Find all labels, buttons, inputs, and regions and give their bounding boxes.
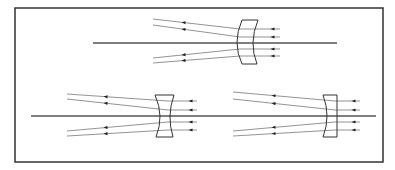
ray-arrow-icon [181,21,185,25]
light-ray [67,94,197,101]
lens-group-biconcave [31,94,218,137]
light-ray [153,25,280,37]
lens-group-meniscus [93,19,337,64]
ray-arrow-icon [103,95,107,98]
ray-arrow-icon [271,54,275,57]
ray-arrow-icon [103,126,107,130]
ray-arrow-icon [352,128,356,131]
ray-arrow-icon [271,27,275,30]
ray-arrow-icon [271,126,275,130]
ray-arrow-icon [103,132,107,135]
ray-arrow-icon [271,47,275,50]
light-ray [153,49,280,58]
ray-arrow-icon [181,59,185,63]
ray-arrow-icon [352,120,356,123]
lens-diagram [0,0,395,170]
meniscus-lens-outline [237,20,258,64]
light-ray [67,130,197,136]
ray-arrow-icon [189,128,193,131]
ray-arrow-icon [271,35,275,38]
ray-arrow-icon [271,94,275,98]
ray-arrow-icon [352,108,356,111]
ray-arrow-icon [103,101,107,105]
ray-arrow-icon [271,132,275,135]
ray-arrow-icon [181,53,185,57]
ray-arrow-icon [189,108,193,111]
light-ray [233,130,360,136]
light-ray [233,92,360,101]
light-ray [153,56,280,63]
ray-arrow-icon [271,102,275,106]
ray-arrow-icon [189,120,193,123]
ray-arrow-icon [189,99,193,102]
lens-group-plano-concave [218,92,376,137]
ray-arrow-icon [352,99,356,102]
